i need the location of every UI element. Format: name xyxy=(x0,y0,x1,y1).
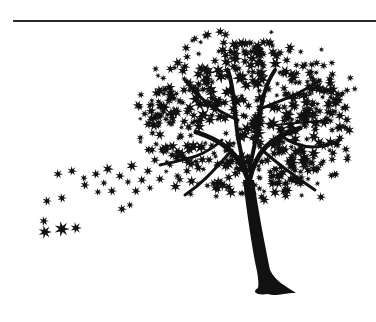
leaf-icon xyxy=(293,61,301,69)
leaf-icon xyxy=(39,225,52,239)
leaf-icon xyxy=(126,201,134,209)
leaf-icon xyxy=(222,130,229,137)
leaf-icon xyxy=(298,48,305,55)
leaf-icon xyxy=(351,86,358,93)
leaf-icon xyxy=(146,184,154,192)
leaf-icon xyxy=(298,61,309,72)
leaf-icon xyxy=(305,176,312,182)
leaf-icon xyxy=(107,186,117,196)
leaf-icon xyxy=(152,65,160,73)
leaf-icon xyxy=(319,61,328,70)
leaf-icon xyxy=(304,136,311,143)
leaf-icon xyxy=(198,39,204,45)
leaf-icon xyxy=(246,69,252,75)
leaf-icon xyxy=(319,47,325,53)
leaf-icon xyxy=(183,166,192,176)
leaf-icon xyxy=(256,174,263,181)
leaf-icon xyxy=(186,175,198,186)
leaf-icon xyxy=(155,73,161,79)
leaf-icon xyxy=(154,129,166,141)
leaf-icon xyxy=(155,174,165,184)
leaf-icon xyxy=(219,38,229,48)
leaf-icon xyxy=(346,74,354,82)
leaf-icon xyxy=(53,169,63,179)
leaf-icon xyxy=(40,216,50,226)
leaf-icon xyxy=(124,178,132,186)
leaf-icon xyxy=(91,169,101,179)
leaf-icon xyxy=(249,73,255,79)
leaf-icon xyxy=(55,221,70,237)
leaf-icon xyxy=(170,181,181,192)
leaf-icon xyxy=(269,187,281,199)
leaf-icon xyxy=(131,186,141,196)
leaf-icon xyxy=(43,196,53,206)
leaf-icon xyxy=(164,169,170,175)
leaf-icon xyxy=(256,87,263,94)
leaf-icon xyxy=(280,103,289,112)
leaf-icon xyxy=(256,185,263,192)
leaf-icon xyxy=(117,204,127,214)
leaf-icon xyxy=(181,43,191,53)
leaf-icon xyxy=(282,56,292,66)
leaf-icon xyxy=(149,97,155,103)
leaf-icon xyxy=(143,166,153,176)
leaf-icon xyxy=(320,94,326,100)
leaf-icon xyxy=(269,29,275,35)
leaf-icon xyxy=(67,166,77,176)
leaf-icon xyxy=(341,145,350,154)
leaf-icon xyxy=(81,180,91,190)
leaf-icon xyxy=(187,132,194,139)
leaf-icon xyxy=(115,171,125,181)
leaf-icon xyxy=(316,192,326,202)
leaf-icon xyxy=(150,155,160,165)
leaf-icon xyxy=(100,179,108,187)
leaf-icon xyxy=(314,180,320,186)
leaf-icon xyxy=(223,172,233,182)
leaf-icon xyxy=(160,74,167,81)
scattered-leaves xyxy=(39,98,345,239)
leaf-icon xyxy=(213,193,220,200)
leaf-icon xyxy=(138,116,143,121)
leaf-icon xyxy=(299,193,305,199)
leaf-icon xyxy=(137,175,147,185)
leaf-icon xyxy=(195,51,201,58)
leaf-icon xyxy=(71,222,82,234)
leaf-icon xyxy=(137,91,145,99)
leaf-icon xyxy=(58,193,68,203)
leaf-icon xyxy=(94,188,102,196)
leaf-icon xyxy=(103,163,115,175)
leaf-icon xyxy=(202,29,213,40)
leaf-icon xyxy=(179,125,185,131)
leaf-icon xyxy=(274,93,280,99)
leaf-icon xyxy=(183,53,192,62)
leaf-icon xyxy=(138,139,143,144)
tree-illustration xyxy=(0,0,376,322)
leaf-icon xyxy=(126,160,138,172)
leaf-icon xyxy=(274,81,280,87)
leaf-icon xyxy=(279,84,288,93)
leaf-icon xyxy=(153,141,160,148)
leaf-icon xyxy=(204,155,214,165)
leaf-icon xyxy=(328,59,336,66)
leaf-icon xyxy=(342,115,352,125)
